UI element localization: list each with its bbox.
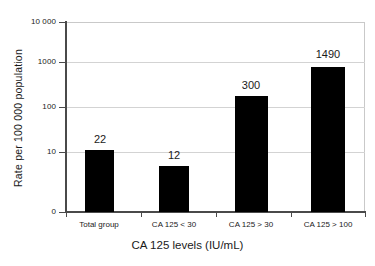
y-tick-0 — [59, 212, 66, 213]
bar-total-group — [85, 150, 114, 212]
y-tick-1000 — [59, 62, 66, 63]
y-tick-label-10000: 10 000 — [31, 17, 56, 26]
x-tick-0 — [66, 212, 67, 217]
x-tick-4 — [365, 212, 366, 217]
x-category-label-ca125-gt100: CA 125 > 100 — [288, 220, 368, 229]
y-tick-label-0: 0 — [51, 207, 56, 216]
y-tick-100 — [59, 107, 66, 108]
bar-value-total-group: 22 — [70, 133, 130, 145]
bar-chart: Rate per 100 000 population 10 000 1000 … — [0, 0, 375, 266]
x-category-label-ca125-gt30: CA 125 > 30 — [211, 220, 291, 229]
x-axis-title: CA 125 levels (IU/mL) — [0, 239, 375, 251]
gridline-1000 — [66, 62, 365, 63]
x-tick-3 — [291, 212, 292, 217]
y-axis-line — [65, 21, 67, 213]
bar-ca125-gt30 — [235, 96, 268, 212]
bar-ca125-gt100 — [311, 67, 345, 212]
y-tick-10000 — [59, 22, 66, 23]
y-tick-label-100: 100 — [42, 102, 56, 111]
y-tick-label-10: 10 — [47, 147, 56, 156]
bar-value-ca125-gt30: 300 — [220, 79, 282, 91]
x-tick-2 — [216, 212, 217, 217]
bar-value-ca125-gt100: 1490 — [294, 48, 362, 60]
bar-ca125-lt30 — [159, 166, 189, 212]
x-category-label-total-group: Total group — [59, 220, 139, 229]
bar-value-ca125-lt30: 12 — [144, 149, 204, 161]
y-tick-label-1000: 1000 — [38, 57, 56, 66]
y-tick-10 — [59, 152, 66, 153]
x-tick-1 — [141, 212, 142, 217]
x-category-label-ca125-lt30: CA 125 < 30 — [134, 220, 214, 229]
y-axis-title: Rate per 100 000 population — [12, 23, 24, 213]
